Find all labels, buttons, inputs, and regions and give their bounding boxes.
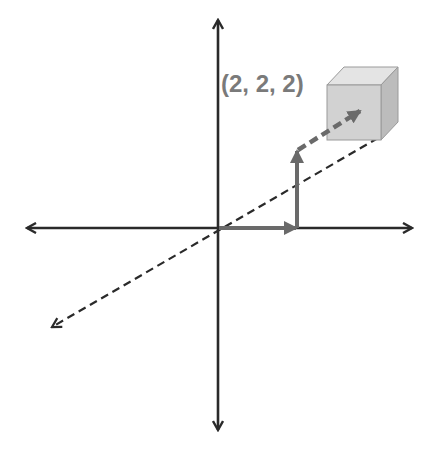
coordinate-diagram: (2, 2, 2) [0, 0, 437, 453]
z-axis [52, 138, 378, 327]
point-label: (2, 2, 2) [221, 70, 304, 97]
cube-marker [327, 67, 398, 140]
